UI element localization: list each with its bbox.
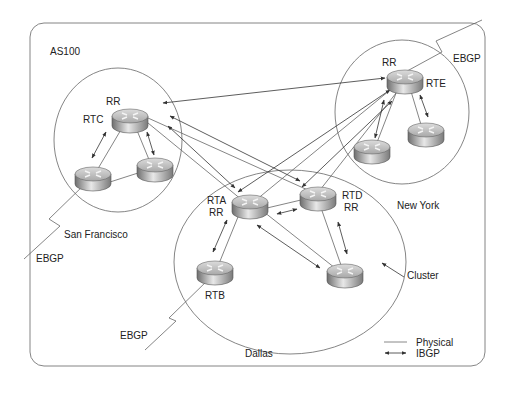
new-york-label: New York (397, 200, 439, 211)
sf-rr-label: RR (106, 96, 120, 107)
rtc-label: RTC (83, 114, 103, 125)
ebgp-sf-label: EBGP (36, 253, 64, 264)
legend-physical-label: Physical (416, 337, 453, 348)
ebgp-ny-label: EBGP (453, 53, 481, 64)
ebgp-link-new-york (398, 20, 482, 76)
rtd-label: RTD (342, 190, 362, 201)
dallas-label: Dallas (245, 348, 273, 359)
router-rtb (197, 261, 233, 285)
rta-label: RTA (207, 195, 226, 206)
as100-label: AS100 (50, 46, 80, 57)
router-ny-left (354, 140, 390, 164)
cluster-label: Cluster (407, 270, 439, 281)
router-dallas-bottom (327, 264, 363, 288)
diagram-canvas (0, 0, 506, 394)
legend-ibgp-label: IBGP (416, 348, 440, 359)
ebgp-link-dallas (145, 278, 210, 350)
router-sf-rr (112, 109, 148, 133)
cluster-new-york (335, 40, 469, 184)
router-ny-rr (387, 70, 423, 94)
rte-label: RTE (426, 78, 446, 89)
router-rtd (300, 187, 336, 211)
ny-rr-label: RR (382, 57, 396, 68)
ebgp-link-san-francisco (24, 183, 86, 259)
rtb-label: RTB (205, 290, 225, 301)
ebgp-dallas-label: EBGP (120, 330, 148, 341)
bgp-route-reflector-diagram: AS100 RR RTC San Francisco RR RTE EBGP N… (0, 0, 506, 394)
rtd-rr-label: RR (344, 202, 358, 213)
router-rta (232, 195, 268, 219)
rta-rr-label: RR (209, 207, 223, 218)
router-ny-right (408, 123, 444, 147)
san-francisco-label: San Francisco (64, 229, 128, 240)
cluster-pointer-arrow (382, 263, 404, 277)
cluster-san-francisco (54, 68, 182, 212)
router-sf-left (75, 167, 111, 191)
router-sf-right (137, 158, 173, 182)
